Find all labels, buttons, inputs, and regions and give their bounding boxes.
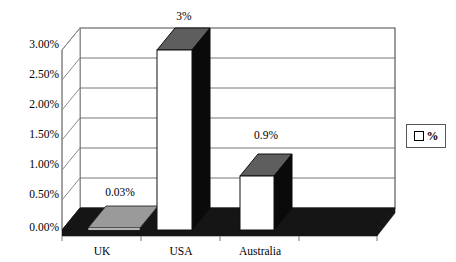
bar-uk-front [88,228,140,230]
bar-usa-side [192,28,210,230]
x-axis-ticks [62,236,377,241]
y-axis-label-2-00: 2.00% [0,99,59,110]
chart-container: 3.00% 2.50% 2.00% 1.50% 1.00% 0.50% 0.00… [0,0,456,262]
y-axis-label-0-00: 0.00% [0,222,59,233]
y-axis-label-3-00: 3.00% [0,39,59,50]
legend-label-percent: % [427,130,439,142]
legend: % [406,124,446,148]
x-axis-label-uk: UK [72,245,132,257]
bar-usa-front [157,50,192,230]
bar-australia-front [240,176,274,230]
legend-swatch-percent [414,131,424,141]
data-label-usa: 3% [158,10,210,22]
x-axis-label-usa: USA [151,245,211,257]
plot-floor-front [62,230,377,236]
y-axis-label-1-00: 1.00% [0,159,59,170]
y-axis-label-0-50: 0.50% [0,189,59,200]
data-label-australia: 0.9% [238,129,294,141]
bar-usa [157,28,210,230]
y-axis-label-1-50: 1.50% [0,129,59,140]
x-axis-label-australia: Australia [225,245,295,257]
y-axis-label-2-50: 2.50% [0,69,59,80]
bar-chart-plot-area [0,0,456,262]
data-label-uk: 0.03% [92,186,148,198]
